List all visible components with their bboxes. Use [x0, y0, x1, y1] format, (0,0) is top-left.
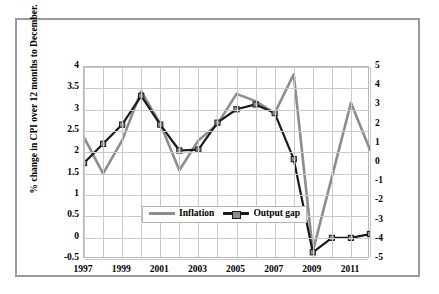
legend-label-inflation: Inflation — [179, 209, 214, 219]
gridline-horizontal — [84, 88, 368, 89]
x-tick-label: 2011 — [330, 265, 370, 275]
gridline-horizontal — [84, 131, 368, 132]
gridline-horizontal — [84, 110, 368, 111]
right-tick-label: 1 — [375, 138, 399, 148]
gridline-horizontal — [84, 259, 368, 260]
left-axis-title: % change in CPI over 12 months to Decemb… — [29, 33, 40, 193]
x-tick-label: 2001 — [139, 265, 179, 275]
plot-area — [83, 66, 369, 258]
x-tick-label: 2009 — [292, 265, 332, 275]
legend-label-output-gap: Output gap — [253, 209, 300, 219]
series-line — [84, 74, 370, 251]
gridline-vertical — [237, 67, 238, 257]
left-tick-label: -0.5 — [41, 253, 79, 263]
gridline-horizontal — [84, 238, 368, 239]
legend-item-output-gap: Output gap — [223, 209, 300, 219]
left-tick-label: 2.5 — [41, 125, 79, 135]
right-tick-label: -3 — [375, 215, 399, 225]
x-tick-label: 2005 — [216, 265, 256, 275]
right-tick-label: -5 — [375, 253, 399, 263]
x-tick-label: 2007 — [254, 265, 294, 275]
gridline-vertical — [256, 67, 257, 257]
left-tick-label: 3.5 — [41, 82, 79, 92]
series-inflation — [84, 74, 370, 251]
right-tick-label: 3 — [375, 99, 399, 109]
x-tick-label: 1997 — [63, 265, 103, 275]
x-tick-label: 2003 — [177, 265, 217, 275]
gridline-vertical — [198, 67, 199, 257]
gridline-horizontal — [84, 152, 368, 153]
left-tick-label: 0 — [41, 232, 79, 242]
left-tick-label: 0.5 — [41, 210, 79, 220]
gridline-vertical — [179, 67, 180, 257]
gridline-vertical — [160, 67, 161, 257]
gridline-vertical — [351, 67, 352, 257]
chart-frame: % change in CPI over 12 months to Decemb… — [15, 18, 420, 277]
left-tick-label: 3 — [41, 104, 79, 114]
x-tick-label: 1999 — [101, 265, 141, 275]
gridline-vertical — [84, 67, 85, 257]
right-tick-label: -2 — [375, 195, 399, 205]
gridline-vertical — [332, 67, 333, 257]
right-tick-label: -1 — [375, 176, 399, 186]
chart-legend: Inflation Output gap — [142, 206, 307, 223]
series-layer — [84, 67, 370, 259]
gridline-vertical — [275, 67, 276, 257]
right-tick-label: -4 — [375, 234, 399, 244]
left-tick-label: 4 — [41, 61, 79, 71]
left-tick-label: 1 — [41, 189, 79, 199]
gridline-vertical — [313, 67, 314, 257]
gridline-vertical — [122, 67, 123, 257]
right-tick-label: 4 — [375, 80, 399, 90]
left-tick-label: 1.5 — [41, 168, 79, 178]
gridline-vertical — [217, 67, 218, 257]
right-tick-label: 2 — [375, 119, 399, 129]
gridline-vertical — [294, 67, 295, 257]
gridline-vertical — [103, 67, 104, 257]
gridline-horizontal — [84, 195, 368, 196]
right-tick-label: 0 — [375, 157, 399, 167]
gridline-vertical — [141, 67, 142, 257]
gridline-vertical — [370, 67, 371, 257]
legend-item-inflation: Inflation — [149, 209, 214, 219]
gridline-horizontal — [84, 174, 368, 175]
legend-line-marker-icon-output-gap — [223, 209, 249, 218]
right-tick-label: 5 — [375, 61, 399, 71]
gridline-horizontal — [84, 67, 368, 68]
left-tick-label: 2 — [41, 146, 79, 156]
legend-line-icon-inflation — [149, 209, 175, 218]
